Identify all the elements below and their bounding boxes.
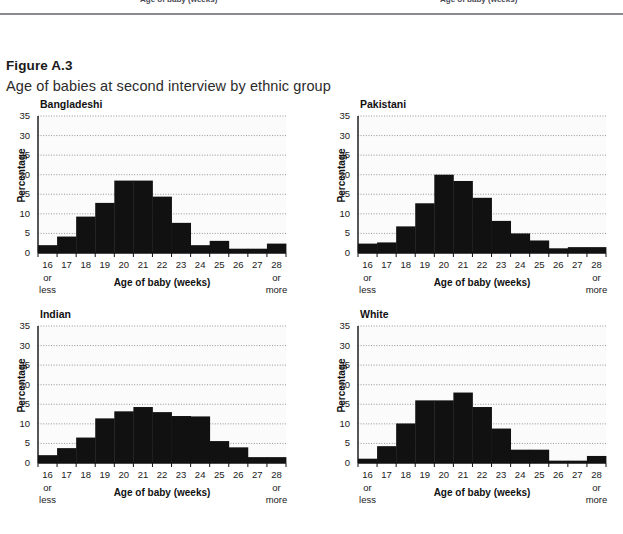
x-tick-label: 19 — [97, 259, 113, 270]
x-axis-start-note-line2: less — [356, 284, 380, 296]
bar — [57, 448, 76, 463]
bar — [377, 446, 396, 463]
x-tick-label: 20 — [436, 259, 452, 270]
bar — [38, 455, 57, 463]
x-tick-label: 25 — [211, 259, 227, 270]
y-tick-label: 30 — [14, 340, 30, 351]
x-axis-end-note: ormore — [264, 482, 288, 505]
bar — [114, 411, 133, 463]
bar — [415, 203, 434, 253]
x-tick-label: 23 — [493, 259, 509, 270]
bar — [358, 244, 377, 253]
y-tick-label: 15 — [14, 398, 30, 409]
bar — [114, 181, 133, 253]
x-tick-label: 28 — [268, 469, 284, 480]
x-axis-end-note-line1: or — [264, 272, 288, 284]
x-tick-label: 25 — [531, 469, 547, 480]
x-tick-label: 27 — [569, 259, 585, 270]
x-tick-label: 17 — [59, 469, 75, 480]
y-tick-label: 0 — [14, 247, 30, 258]
y-tick-label: 10 — [334, 208, 350, 219]
x-tick-label: 16 — [40, 469, 56, 480]
x-axis-end-note-line2: more — [264, 494, 288, 506]
y-tick-label: 20 — [334, 379, 350, 390]
y-tick-label: 5 — [14, 227, 30, 238]
histogram-pakistani — [324, 110, 623, 260]
bar — [472, 198, 491, 253]
chart-title-bangladeshi: Bangladeshi — [40, 98, 102, 110]
bar — [191, 245, 210, 253]
x-axis-end-note-line1: or — [584, 272, 608, 284]
bar — [492, 429, 511, 463]
y-tick-label: 20 — [14, 169, 30, 180]
x-tick-label: 19 — [97, 469, 113, 480]
bar — [210, 241, 229, 253]
bar — [172, 223, 191, 253]
x-axis-title-pakistani: Age of baby (weeks) — [402, 277, 562, 288]
x-tick-label: 27 — [249, 469, 265, 480]
x-tick-label: 17 — [59, 259, 75, 270]
x-axis-end-note-line2: more — [584, 284, 608, 296]
y-tick-label: 5 — [334, 437, 350, 448]
bar — [248, 457, 267, 463]
x-tick-label: 24 — [512, 259, 528, 270]
x-tick-label: 28 — [588, 259, 604, 270]
x-tick-label: 18 — [398, 259, 414, 270]
bar — [530, 240, 549, 253]
y-tick-label: 15 — [14, 188, 30, 199]
bar — [434, 400, 453, 463]
x-tick-label: 22 — [154, 469, 170, 480]
bar — [76, 217, 95, 253]
bar — [152, 412, 171, 463]
bar — [472, 407, 491, 463]
x-tick-label: 19 — [417, 259, 433, 270]
chart-title-white: White — [360, 308, 389, 320]
x-axis-title-bangladeshi: Age of baby (weeks) — [82, 277, 242, 288]
y-tick-label: 10 — [14, 418, 30, 429]
chart-panel-bangladeshi: BangladeshiPercentage0510152025303516171… — [4, 98, 304, 306]
bar — [415, 400, 434, 463]
x-tick-label: 20 — [116, 259, 132, 270]
y-tick-label: 20 — [334, 169, 350, 180]
cutoff-axis-title-left: Age of baby (weeks) — [140, 0, 217, 4]
y-tick-label: 35 — [334, 320, 350, 331]
bar — [453, 393, 472, 463]
y-tick-label: 15 — [334, 188, 350, 199]
chart-panel-indian: IndianPercentage051015202530351617181920… — [4, 308, 304, 516]
x-tick-label: 27 — [569, 469, 585, 480]
bar — [76, 438, 95, 463]
bar — [492, 221, 511, 253]
bar — [229, 447, 248, 463]
x-axis-start-note-line1: or — [356, 482, 380, 494]
x-tick-label: 20 — [116, 469, 132, 480]
bar — [587, 456, 606, 463]
x-axis-start-note: orless — [356, 482, 380, 505]
bar — [587, 247, 606, 253]
x-tick-label: 26 — [230, 259, 246, 270]
x-axis-start-note: orless — [36, 272, 60, 295]
section-divider-rule — [0, 13, 623, 15]
y-tick-label: 25 — [14, 149, 30, 160]
x-tick-label: 21 — [455, 469, 471, 480]
x-axis-start-note-line2: less — [36, 284, 60, 296]
x-tick-label: 28 — [268, 259, 284, 270]
histogram-white — [324, 320, 623, 470]
x-tick-label: 23 — [173, 259, 189, 270]
x-tick-label: 24 — [192, 259, 208, 270]
x-axis-start-note-line1: or — [36, 272, 60, 284]
bar — [210, 441, 229, 463]
bar — [549, 248, 568, 253]
x-tick-label: 22 — [474, 259, 490, 270]
y-tick-label: 25 — [334, 359, 350, 370]
x-axis-title-white: Age of baby (weeks) — [402, 487, 562, 498]
y-tick-label: 30 — [334, 340, 350, 351]
x-tick-label: 18 — [78, 259, 94, 270]
bar — [172, 416, 191, 463]
x-tick-label: 20 — [436, 469, 452, 480]
x-axis-end-note: ormore — [584, 272, 608, 295]
bar — [267, 457, 286, 463]
x-axis-end-note: ormore — [264, 272, 288, 295]
bar — [95, 203, 114, 253]
chart-panel-pakistani: PakistaniPercentage051015202530351617181… — [324, 98, 623, 306]
x-axis-start-note-line2: less — [356, 494, 380, 506]
